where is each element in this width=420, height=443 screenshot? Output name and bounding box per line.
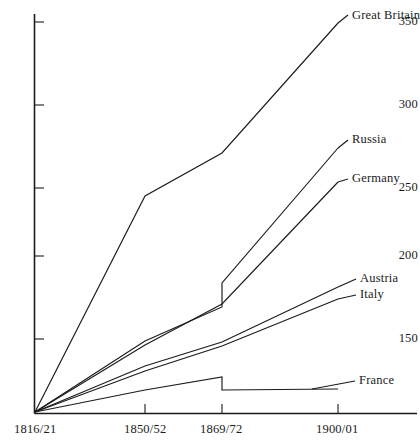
series-label-austria: Austria <box>360 272 398 285</box>
series-label-russia: Russia <box>352 133 387 146</box>
series-label-germany: Germany <box>352 172 400 185</box>
series-label-great-britain: Great Britain <box>352 9 420 22</box>
series-label-italy: Italy <box>360 288 384 301</box>
series-label-france: France <box>359 374 394 387</box>
